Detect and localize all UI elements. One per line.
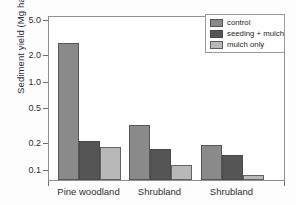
- bar-control-2: [201, 145, 222, 180]
- y-axis-tick-label: 0.2: [0, 138, 41, 148]
- legend-item: mulch only: [210, 40, 280, 49]
- bar-seeding-mulch-2: [222, 155, 243, 180]
- x-axis-tick: [284, 181, 285, 186]
- y-axis-tick: [43, 108, 48, 109]
- legend-item: seeding + mulch: [210, 29, 280, 38]
- bar-control-1: [129, 125, 150, 181]
- y-axis-tick-label: 0.1: [0, 165, 41, 175]
- y-axis-tick-label: 2.0: [0, 50, 41, 60]
- legend-swatch-icon: [210, 41, 223, 49]
- chart-figure: Sediment yield (Mg ha-1 yr-1) 0.10.20.51…: [0, 0, 296, 205]
- x-axis-tick: [48, 181, 49, 186]
- y-axis-tick: [43, 143, 48, 144]
- legend-label: mulch only: [227, 40, 264, 49]
- y-axis-tick: [43, 55, 48, 56]
- y-axis-tick-label: 1.0: [0, 77, 41, 87]
- bar-control-0: [58, 43, 79, 180]
- legend-swatch-icon: [210, 19, 223, 27]
- bar-seeding-mulch-1: [150, 149, 171, 180]
- bar-mulch-only-0: [100, 147, 121, 180]
- x-axis-tick-label: Pine woodland: [57, 186, 119, 197]
- bar-mulch-only-2: [243, 175, 264, 180]
- y-axis-tick-label: 5.0: [0, 15, 41, 25]
- y-axis-tick: [43, 170, 48, 171]
- y-axis-tick-label: 0.5: [0, 103, 41, 113]
- legend-label: seeding + mulch: [227, 29, 284, 38]
- y-axis-tick: [43, 82, 48, 83]
- legend-swatch-icon: [210, 30, 223, 38]
- y-axis-tick: [43, 20, 48, 21]
- x-axis-tick-label: Shrubland: [138, 186, 181, 197]
- legend: controlseeding + mulchmulch only: [205, 14, 285, 53]
- legend-label: control: [227, 18, 250, 27]
- bar-mulch-only-1: [171, 165, 192, 180]
- bar-seeding-mulch-0: [79, 141, 100, 180]
- x-axis-tick-label: Shrubland: [210, 186, 253, 197]
- legend-item: control: [210, 18, 280, 27]
